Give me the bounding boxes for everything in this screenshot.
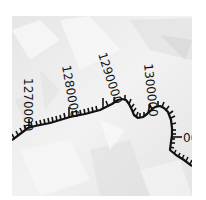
measure-label-1270000: 1270000 [21,78,35,131]
map-canvas[interactable]: 1270000 1280000 1290000 1300000 00 [12,16,192,196]
map-frame[interactable]: 1270000 1280000 1290000 1300000 00 [12,16,192,196]
hillshade-layer [12,16,192,196]
measure-label-partial: 00 [183,131,192,145]
